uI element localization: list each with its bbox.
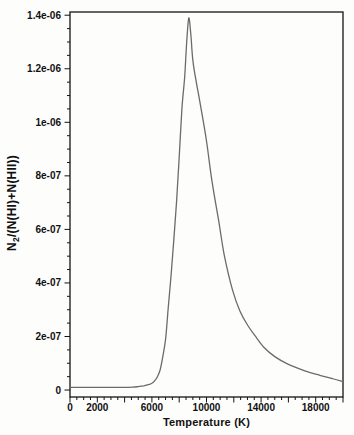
- svg-text:4e-07: 4e-07: [35, 277, 61, 288]
- y-axis-title: N2/(N(HI)+N(HII)): [5, 155, 21, 251]
- svg-text:0: 0: [67, 402, 73, 413]
- y-axis-title-symbol: N: [5, 242, 19, 251]
- y-axis-title-subscript: 2: [11, 237, 21, 242]
- svg-text:1.2e-06: 1.2e-06: [27, 63, 61, 74]
- svg-text:2e-07: 2e-07: [35, 331, 61, 342]
- svg-text:0: 0: [55, 385, 61, 396]
- svg-text:14000: 14000: [247, 402, 275, 413]
- x-axis-title: Temperature (K): [70, 416, 343, 428]
- data-curve: [70, 18, 343, 388]
- chart-canvas: 02000600010000140001800002e-074e-076e-07…: [0, 0, 354, 435]
- x-tick-labels: 020006000100001400018000: [67, 402, 330, 413]
- temperature-n2-fraction-figure: 02000600010000140001800002e-074e-076e-07…: [0, 0, 354, 435]
- svg-text:1.4e-06: 1.4e-06: [27, 10, 61, 21]
- y-tick-labels: 02e-074e-076e-078e-071e-061.2e-061.4e-06: [27, 10, 61, 396]
- plot-frame: [70, 12, 343, 397]
- svg-text:6000: 6000: [141, 402, 164, 413]
- svg-text:1e-06: 1e-06: [35, 117, 61, 128]
- y-ticks: [65, 15, 71, 390]
- svg-text:10000: 10000: [193, 402, 221, 413]
- y-axis-title-rest: /(N(HI)+N(HII)): [5, 155, 19, 237]
- svg-text:2000: 2000: [86, 402, 109, 413]
- svg-text:18000: 18000: [302, 402, 330, 413]
- svg-text:8e-07: 8e-07: [35, 170, 61, 181]
- svg-text:6e-07: 6e-07: [35, 224, 61, 235]
